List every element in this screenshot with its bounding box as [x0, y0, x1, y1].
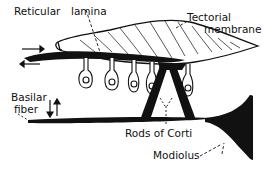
vibration-arrows: [47, 99, 60, 117]
label-tectorial: Tectorial: [187, 12, 231, 23]
label-lamina: lamina: [71, 6, 107, 17]
label-rods-of-corti: Rods of Corti: [125, 128, 192, 139]
label-reticular: Reticular: [14, 6, 60, 17]
label-basilar: Basilar: [11, 92, 47, 103]
label-membrane: membrane: [204, 24, 261, 35]
modiolus: [200, 95, 253, 160]
basilar-fiber: [18, 114, 210, 123]
label-fiber: fiber: [14, 104, 38, 115]
label-modiolus: Modiolus: [153, 150, 200, 161]
